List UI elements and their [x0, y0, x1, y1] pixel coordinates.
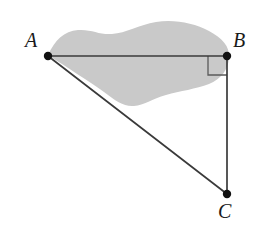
- vertex-label-C: C: [218, 201, 231, 221]
- vertex-dot-C: [223, 190, 231, 198]
- geometry-figure: A B C: [0, 0, 259, 238]
- vertex-label-B: B: [233, 30, 245, 50]
- vertex-dot-B: [223, 52, 231, 60]
- vertex-dot-A: [44, 52, 52, 60]
- shaded-irregular-region: [48, 21, 229, 106]
- vertex-label-A: A: [25, 30, 37, 50]
